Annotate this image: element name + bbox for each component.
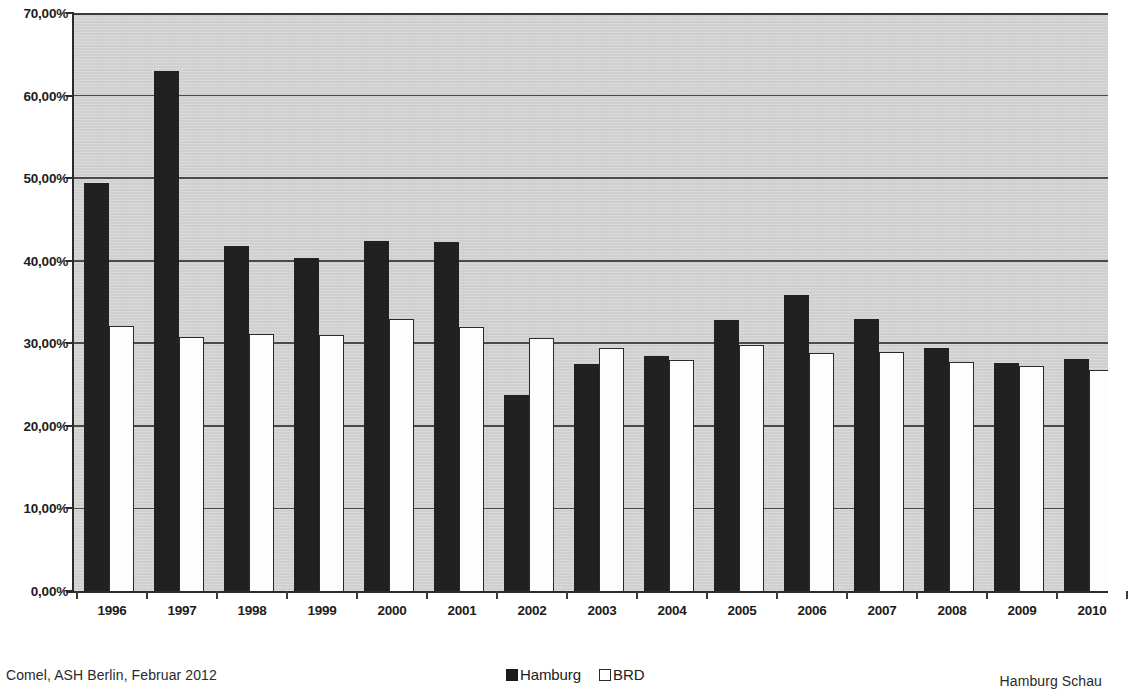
x-axis-tick-label: 2003 [567,603,637,618]
y-axis-tick-mark [66,260,74,262]
bar-grain-texture [854,319,879,591]
bar-grain-texture [574,364,599,591]
bar-hamburg-2010 [1064,359,1089,591]
bar-brd-2010 [1089,370,1108,591]
y-axis-tick-mark [66,12,74,14]
bar-grain-texture [714,320,739,591]
x-axis-tick-label: 1998 [217,603,287,618]
x-axis-tick-mark [1056,591,1058,599]
bar-grain-texture [644,356,669,591]
x-axis-tick-mark [706,591,708,599]
bar-brd-2004 [669,360,694,591]
x-axis-tick-mark [76,591,78,599]
bar-hamburg-2003 [574,364,599,591]
bar-brd-2005 [739,345,764,591]
y-axis-tick-mark [66,590,74,592]
x-axis-tick-mark [916,591,918,599]
x-axis-tick-label: 2001 [427,603,497,618]
legend-label-hamburg: Hamburg [520,666,581,683]
bar-hamburg-1998 [224,246,249,591]
x-axis-tick-mark [776,591,778,599]
y-axis-tick-mark [66,177,74,179]
x-axis-tick-mark [566,591,568,599]
y-axis-tick-mark [66,342,74,344]
plot-area [74,13,1108,591]
x-axis-tick-mark [846,591,848,599]
chart-legend: Hamburg BRD [506,666,644,683]
y-axis-tick-label: 40,00% [0,253,68,268]
filled-square-icon [506,669,518,681]
legend-item-brd: BRD [599,666,644,683]
x-axis-tick-label: 2006 [777,603,847,618]
x-axis-tick-label: 2010 [1057,603,1127,618]
x-axis-tick-mark [426,591,428,599]
x-axis-tick-label: 2000 [357,603,427,618]
y-axis-tick-label: 0,00% [0,584,68,599]
hollow-square-icon [599,669,611,681]
bar-hamburg-2002 [504,395,529,591]
y-axis-tick-label: 60,00% [0,88,68,103]
bar-grain-texture [154,71,179,591]
x-axis-tick-label: 2005 [707,603,777,618]
y-axis-tick-mark [66,425,74,427]
bar-hamburg-1999 [294,258,319,591]
bar-grain-texture [924,348,949,591]
bar-brd-2001 [459,327,484,591]
bar-brd-1998 [249,334,274,591]
x-axis-tick-mark [146,591,148,599]
bar-hamburg-2006 [784,295,809,591]
x-axis-tick-label: 2007 [847,603,917,618]
y-axis-tick-label: 20,00% [0,418,68,433]
bar-hamburg-1997 [154,71,179,591]
x-axis-tick-label: 1999 [287,603,357,618]
x-axis-tick-mark [356,591,358,599]
bar-grain-texture [434,242,459,591]
bar-grain-texture [784,295,809,591]
y-axis-tick-label: 30,00% [0,336,68,351]
y-axis-tick-label: 10,00% [0,501,68,516]
y-axis-tick-mark [66,507,74,509]
x-axis-tick-label: 2008 [917,603,987,618]
x-axis-tick-label: 1997 [147,603,217,618]
bar-hamburg-2001 [434,242,459,591]
x-axis-tick-mark [496,591,498,599]
footer-publication-name: Hamburg Schau [1000,673,1102,689]
bar-hamburg-2009 [994,363,1019,591]
x-axis-tick-mark [216,591,218,599]
x-axis-tick-mark [286,591,288,599]
bar-brd-2000 [389,319,414,591]
bar-brd-2006 [809,353,834,591]
bar-hamburg-2004 [644,356,669,591]
gridline [74,95,1108,97]
bar-grain-texture [1064,359,1089,591]
bar-hamburg-2008 [924,348,949,591]
bar-brd-2008 [949,362,974,591]
x-axis-tick-mark [986,591,988,599]
bar-brd-2002 [529,338,554,591]
bar-hamburg-2000 [364,241,389,591]
x-axis-tick-mark [636,591,638,599]
bar-grain-texture [224,246,249,591]
y-axis-tick-label: 70,00% [0,6,68,21]
x-axis-tick-label: 2004 [637,603,707,618]
legend-label-brd: BRD [613,666,644,683]
x-axis-tick-label: 1996 [77,603,147,618]
bar-grain-texture [364,241,389,591]
bar-brd-2003 [599,348,624,591]
bar-grain-texture [504,395,529,591]
bar-grain-texture [294,258,319,591]
bar-brd-2007 [879,352,904,591]
gridline [74,177,1108,179]
x-axis-line [66,591,1108,593]
bar-grain-texture [994,363,1019,591]
y-axis: 70,00%60,00%50,00%40,00%30,00%20,00%10,0… [0,0,68,620]
x-axis-tick-label: 2002 [497,603,567,618]
footer-source-credit: Comel, ASH Berlin, Februar 2012 [6,667,217,683]
y-axis-line [72,12,74,593]
plot-top-border [74,13,1108,15]
bar-hamburg-2005 [714,320,739,591]
bar-hamburg-2007 [854,319,879,591]
y-axis-tick-mark [66,95,74,97]
bar-brd-2009 [1019,366,1044,591]
